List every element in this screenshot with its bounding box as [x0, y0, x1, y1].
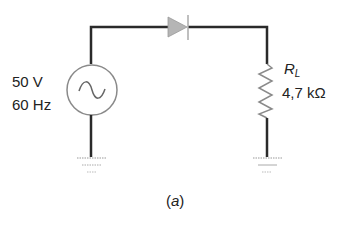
- ground-right-icon: [253, 158, 283, 172]
- source-frequency-label: 60 Hz: [12, 96, 51, 114]
- diode-icon: [168, 15, 188, 40]
- caption-letter: a: [171, 192, 179, 209]
- resistor-subscript: L: [295, 68, 301, 79]
- ground-left-icon: [77, 158, 107, 172]
- resistor-icon: [259, 64, 272, 118]
- wire-left-top: [91, 27, 168, 64]
- source-voltage-label: 50 V: [12, 73, 43, 91]
- circuit-diagram: [0, 0, 346, 251]
- resistor-name-label: RL: [284, 60, 300, 83]
- figure-caption: (a): [166, 192, 184, 210]
- resistor-name: R: [284, 60, 295, 77]
- wire-right-top: [188, 27, 267, 64]
- resistor-value-label: 4,7 kΩ: [282, 84, 326, 102]
- ac-source-icon: [67, 65, 117, 115]
